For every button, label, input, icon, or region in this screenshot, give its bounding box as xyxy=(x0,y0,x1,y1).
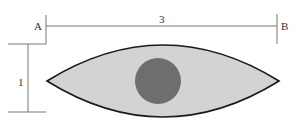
height-dimension: 1 xyxy=(8,44,46,112)
label-height: 1 xyxy=(18,76,24,88)
diagram-canvas: A B 3 1 xyxy=(0,0,298,122)
inner-circle xyxy=(135,58,181,104)
length-dimension: A B 3 xyxy=(34,13,288,44)
label-b: B xyxy=(281,20,288,32)
label-a: A xyxy=(34,20,42,32)
label-length: 3 xyxy=(159,13,165,25)
